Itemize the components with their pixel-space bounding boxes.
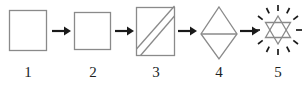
rhombus-with-midline-icon: [197, 4, 241, 62]
step-4-label: 4: [197, 62, 241, 82]
hexagram-with-rays-icon: [252, 4, 304, 64]
step-3: 3: [133, 0, 179, 89]
step-2-label: 2: [70, 62, 116, 82]
square-icon: [4, 4, 52, 60]
step-3-label: 3: [133, 62, 179, 82]
square-with-diagonals-icon: [133, 4, 179, 60]
step-4: 4: [197, 0, 241, 89]
step-1: 1: [4, 0, 52, 89]
square-icon: [70, 4, 116, 60]
step-2: 2: [70, 0, 116, 89]
step-5: 5: [252, 0, 304, 89]
arrow-1-to-2-icon: [52, 24, 72, 38]
step-5-label: 5: [252, 62, 304, 82]
arrow-3-to-4-icon: [178, 24, 198, 38]
arrow-2-to-3-icon: [115, 24, 135, 38]
step-1-label: 1: [4, 62, 52, 82]
shape-sequence-diagram: 1 2 3 4: [0, 0, 307, 89]
